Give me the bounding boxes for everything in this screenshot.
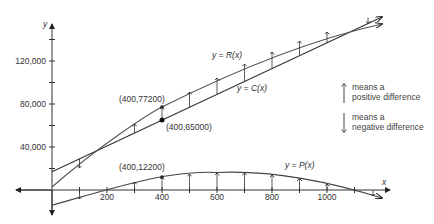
revenue-curve-label: y = R(x) [211, 50, 242, 60]
point-p-400 [160, 175, 164, 179]
x-tick-label-400: 400 [155, 192, 169, 202]
x-axis-label: x [381, 177, 387, 187]
cost-curve-label: y = C(x) [236, 83, 267, 93]
legend-negative: means a negative difference [340, 112, 424, 134]
axes: y x 120,000 80,000 40,000 200 400 600 80… [15, 19, 390, 215]
x-tick-label-800: 800 [265, 192, 279, 202]
y-tick-label-40000: 40,000 [20, 142, 46, 152]
legend-positive-line2: positive difference [352, 92, 420, 102]
legend-negative-line1: means a [352, 112, 424, 122]
x-tick-label-1000: 1000 [318, 192, 337, 202]
up-arrow-icon [340, 82, 348, 104]
legend-positive: means a positive difference [340, 82, 424, 104]
x-tick-label-600: 600 [210, 192, 224, 202]
legend: means a positive difference means a nega… [340, 82, 424, 134]
x-tick-label-200: 200 [100, 192, 114, 202]
down-arrow-icon [340, 112, 348, 134]
point-label-p-400: (400,12200) [119, 162, 165, 172]
revenue-curve [52, 24, 382, 187]
y-tick-label-80000: 80,000 [20, 99, 46, 109]
y-axis-label: y [42, 19, 48, 29]
difference-arrows-rc [80, 18, 369, 169]
y-tick-label-120000: 120,000 [15, 56, 46, 66]
point-c-400 [160, 118, 165, 123]
point-label-c-400: (400,65000) [166, 122, 212, 132]
point-r-400 [160, 105, 164, 109]
legend-positive-line1: means a [352, 82, 420, 92]
legend-negative-line2: negative difference [352, 122, 424, 132]
profit-curve-label: y = P(x) [284, 160, 315, 170]
point-label-r-400: (400,77200) [119, 94, 165, 104]
